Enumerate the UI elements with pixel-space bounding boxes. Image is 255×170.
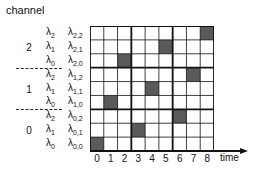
time-tick: 8 xyxy=(200,153,214,164)
slot-label: λ0,1 xyxy=(68,123,83,136)
wavelength-label: λ1 xyxy=(46,82,55,95)
slot-label: λ1,1 xyxy=(68,82,83,95)
shaded-slot xyxy=(200,26,214,40)
time-tick: 6 xyxy=(173,153,187,164)
wavelength-label: λ0 xyxy=(46,137,55,150)
time-tick: 0 xyxy=(90,153,104,164)
slot-label: λ2,0 xyxy=(68,54,83,67)
time-tick: 2 xyxy=(118,153,132,164)
shaded-slot xyxy=(186,68,200,82)
time-tick: 7 xyxy=(186,153,200,164)
wavelength-label: λ2 xyxy=(46,109,55,122)
wavelength-label: λ2 xyxy=(46,68,55,81)
time-tick: 3 xyxy=(131,153,145,164)
channel-divider xyxy=(16,109,62,110)
wavelength-label: λ1 xyxy=(46,123,55,136)
y-axis-title: channel xyxy=(6,4,45,16)
wavelength-label: λ0 xyxy=(46,95,55,108)
time-tick: 1 xyxy=(104,153,118,164)
slot-label: λ0,0 xyxy=(68,137,83,150)
wavelength-label: λ1 xyxy=(46,40,55,53)
channel-label: 2 xyxy=(22,42,36,53)
channel-divider xyxy=(16,68,62,69)
shaded-slot xyxy=(104,95,118,109)
slot-label: λ1,0 xyxy=(68,95,83,108)
slot-label: λ1,2 xyxy=(68,68,83,81)
shaded-slot xyxy=(131,123,145,137)
channel-label: 1 xyxy=(22,84,36,95)
time-slot-grid xyxy=(90,26,214,151)
shaded-slot xyxy=(118,54,132,68)
slot-label: λ2,1 xyxy=(68,40,83,53)
x-axis-label: time xyxy=(220,152,239,163)
channel-label: 0 xyxy=(22,125,36,136)
slot-label: λ0,2 xyxy=(68,109,83,122)
shaded-slot xyxy=(159,40,173,54)
wavelength-label: λ0 xyxy=(46,54,55,67)
wavelength-label: λ2 xyxy=(46,26,55,39)
slot-label: λ2,2 xyxy=(68,26,83,39)
shaded-slot xyxy=(145,82,159,96)
shaded-slot xyxy=(173,109,187,123)
time-tick: 4 xyxy=(145,153,159,164)
time-tick: 5 xyxy=(159,153,173,164)
